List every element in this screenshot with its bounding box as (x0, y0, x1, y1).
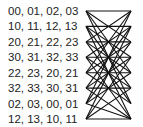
connection-network (0, 0, 143, 127)
